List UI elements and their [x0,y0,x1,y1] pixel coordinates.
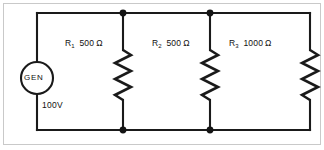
junction-node-top-r1 [120,10,127,17]
r1-resistor-zigzag [115,50,131,100]
circuit-schematic-svg [0,0,324,150]
generator-voltage-label: 100V [42,101,63,110]
r1-value: 500 [77,38,94,48]
r1-label: R1500Ω [65,39,103,49]
junction-node-bottom-r2 [207,127,214,134]
r2-label: R2500Ω [152,39,190,49]
r3-unit: Ω [263,38,272,48]
junction-node-top-r2 [207,10,214,17]
r1-unit: Ω [94,38,103,48]
junction-node-bottom-r1 [120,127,127,134]
r2-value: 500 [164,38,181,48]
generator-label: GEN [24,74,43,82]
circuit-diagram: GEN 100V R1500Ω R2500Ω R31000Ω [0,0,324,150]
r2-unit: Ω [181,38,190,48]
r2-resistor-zigzag [202,50,218,100]
r3-label: R31000Ω [229,39,272,49]
r3-resistor-zigzag [302,50,318,100]
r3-value: 1000 [241,38,263,48]
